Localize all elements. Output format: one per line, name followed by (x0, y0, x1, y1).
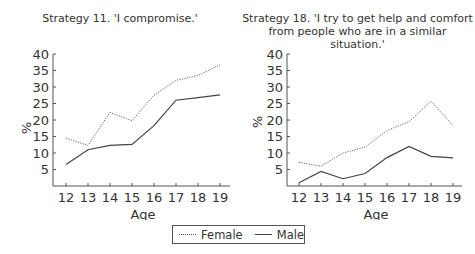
x-tick-label: 19 (445, 190, 462, 205)
y-tick-label: 30 (32, 80, 49, 95)
x-tick-label: 18 (190, 190, 207, 205)
x-tick-label: 18 (423, 190, 440, 205)
x-tick-label: 13 (80, 190, 97, 205)
y-tick-label: 5 (41, 162, 49, 177)
chart-panel-strategy-11: Strategy 11. 'I compromise.' 51015202530… (0, 0, 240, 220)
y-tick-label: 10 (266, 146, 283, 161)
x-tick-label: 17 (401, 190, 418, 205)
y-tick-label: 35 (32, 63, 49, 78)
x-tick-label: 17 (168, 190, 185, 205)
legend-label-female: Female (201, 228, 243, 242)
x-tick-label: 15 (124, 190, 141, 205)
x-tick-label: 14 (102, 190, 119, 205)
x-tick-label: 19 (212, 190, 229, 205)
y-tick-label: 35 (266, 63, 283, 78)
y-axis-label: % (19, 122, 34, 134)
y-tick-label: 10 (32, 146, 49, 161)
x-tick-label: 12 (291, 190, 308, 205)
legend-label-male: Male (277, 228, 304, 242)
x-tick-label: 16 (146, 190, 163, 205)
y-axis-label: % (250, 116, 265, 128)
series-line-female (66, 65, 220, 146)
y-tick-label: 40 (32, 47, 49, 62)
x-tick-label: 12 (58, 190, 75, 205)
y-tick-label: 5 (275, 162, 283, 177)
line-chart: 5101520253035401213141516171819%Age (240, 0, 475, 220)
line-chart: 5101520253035401213141516171819%Age (0, 0, 240, 220)
series-line-male (66, 95, 220, 165)
x-tick-label: 13 (313, 190, 330, 205)
chart-legend: Female Male (172, 225, 305, 244)
x-tick-label: 16 (379, 190, 396, 205)
y-tick-label: 25 (32, 96, 49, 111)
x-axis-label: Age (363, 207, 388, 220)
chart-panel-strategy-18: Strategy 18. 'I try to get help and comf… (240, 0, 475, 220)
x-tick-label: 15 (357, 190, 374, 205)
y-tick-label: 30 (266, 80, 283, 95)
x-tick-label: 14 (335, 190, 352, 205)
y-tick-label: 20 (266, 113, 283, 128)
y-tick-label: 40 (266, 47, 283, 62)
legend-swatch-solid (255, 234, 272, 235)
y-tick-label: 15 (266, 129, 283, 144)
x-axis-label: Age (130, 207, 155, 220)
y-tick-label: 25 (266, 96, 283, 111)
legend-swatch-dotted (179, 234, 196, 235)
series-line-male (299, 146, 453, 182)
